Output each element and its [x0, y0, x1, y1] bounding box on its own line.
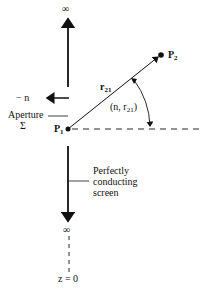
screen-label-line1: Perfectly [93, 166, 129, 176]
aperture-label: Aperture [8, 110, 44, 120]
bottom-infinity-label: ∞ [63, 225, 70, 235]
screen-label-line3: screen [93, 188, 119, 198]
neg-n-label: − n [16, 93, 29, 103]
diagram-canvas [0, 0, 200, 292]
p1-label: P1 [54, 124, 64, 136]
top-infinity-label: ∞ [62, 4, 69, 14]
point-p2 [158, 52, 164, 58]
r21-vector [68, 57, 158, 129]
p2-label: P2 [168, 50, 178, 62]
r21-label: r21 [100, 82, 111, 94]
angle-label: (n, r21) [110, 102, 137, 114]
z-zero-label: z = 0 [58, 274, 78, 284]
screen-label-line2: conducting [93, 177, 137, 187]
sigma-label: Σ [20, 121, 26, 131]
point-p1 [66, 127, 71, 132]
